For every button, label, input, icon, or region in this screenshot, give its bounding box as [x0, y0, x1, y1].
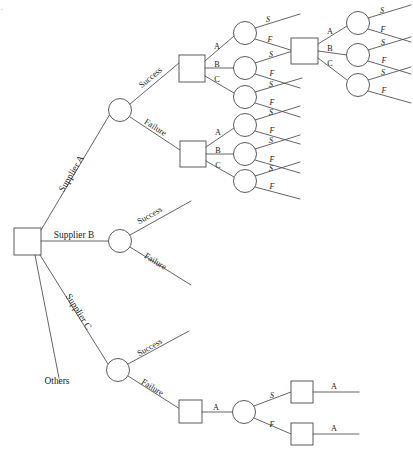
chance-node-af-c[interactable]: [234, 170, 257, 193]
label-others: Others: [45, 376, 70, 386]
edge-as-c-s: [255, 78, 302, 92]
label-as-b-f: F: [269, 69, 275, 78]
label-sl-b-f: F: [381, 56, 387, 65]
label-af-b-s: S: [269, 136, 273, 145]
chance-node-supplier-a[interactable]: [109, 99, 132, 122]
label-as-option-a: A: [214, 42, 220, 51]
label-a-failure: Failure: [143, 116, 169, 138]
label-supplier-a: Supplier A: [57, 153, 86, 193]
label-cf-s: S: [270, 391, 274, 400]
label-cf-option-a: A: [213, 403, 219, 412]
label-sl-a-f: F: [380, 25, 386, 34]
label-sl-a-s: S: [380, 6, 384, 15]
decision-node-cf-f-terminal[interactable]: [291, 423, 313, 445]
edge-others: [35, 255, 59, 378]
chance-node-supplier-c[interactable]: [107, 359, 130, 382]
label-sl-c-f: F: [381, 86, 387, 95]
label-cf-f: F: [269, 420, 275, 429]
label-sl-option-b: B: [327, 44, 333, 53]
label-af-b-f: F: [269, 155, 275, 164]
label-as-c-s: S: [269, 80, 273, 89]
edge-af-b-f: [255, 160, 300, 173]
edge-sl-b-s: [368, 37, 411, 50]
edge-as-c-f: [255, 103, 300, 117]
label-af-a-s: S: [269, 108, 273, 117]
label-af-option-b: B: [215, 146, 221, 155]
chance-node-supplier-b[interactable]: [109, 230, 132, 253]
label-b-failure: Failure: [143, 250, 169, 271]
label-sl-c-s: S: [381, 68, 385, 77]
chance-node-af-b[interactable]: [234, 143, 257, 166]
label-af-option-c: C: [215, 161, 221, 170]
label-sl-option-c: C: [327, 59, 333, 68]
decision-node-c-failure[interactable]: [179, 400, 202, 423]
chance-node-c-failure[interactable]: [233, 401, 256, 424]
label-c-failure: Failure: [140, 376, 166, 397]
label-as-option-c: C: [214, 75, 220, 84]
chance-node-as-a[interactable]: [234, 22, 257, 45]
decision-tree-diagram: Supplier A Supplier B Supplier C Others …: [0, 0, 413, 463]
chance-node-as-b[interactable]: [234, 57, 257, 80]
label-as-option-b: B: [214, 60, 220, 69]
edge-af-c-f: [255, 187, 300, 199]
label-as-a-s: S: [266, 15, 270, 24]
decision-node-cf-s-terminal[interactable]: [291, 381, 313, 403]
label-cf-f-terminal-a: A: [331, 424, 337, 433]
label-sl-option-a: A: [327, 27, 333, 36]
decision-node-a-failure[interactable]: [180, 141, 206, 167]
chance-node-sl-c[interactable]: [347, 74, 370, 97]
root-decision-node[interactable]: [14, 228, 41, 255]
edge-sl-a-f: [368, 29, 411, 42]
chance-node-as-c[interactable]: [234, 86, 257, 109]
scan-corner-mark: .: [1, 4, 3, 12]
label-b-success: Success: [135, 204, 164, 227]
label-as-a-f: F: [267, 35, 273, 44]
label-as-c-f: F: [269, 98, 275, 107]
edge-sl-c-s: [368, 67, 411, 80]
edge-af-c-s: [255, 162, 300, 176]
label-af-c-f: F: [269, 182, 275, 191]
label-af-c-s: S: [269, 164, 273, 173]
edge-af-a-s: [255, 106, 300, 120]
label-af-a-f: F: [269, 126, 275, 135]
label-as-b-s: S: [269, 50, 273, 59]
edge-sl-b-f: [368, 61, 411, 74]
tree-canvas: Supplier A Supplier B Supplier C Others …: [0, 0, 413, 463]
decision-node-second-level[interactable]: [291, 38, 318, 64]
edge-as-a-s: [255, 14, 300, 28]
label-supplier-c: Supplier C: [64, 292, 94, 332]
chance-node-sl-b[interactable]: [347, 44, 370, 67]
chance-node-af-a[interactable]: [234, 114, 257, 137]
label-af-option-a: A: [215, 128, 221, 137]
decision-node-a-success[interactable]: [179, 55, 205, 82]
label-cf-s-terminal-a: A: [331, 382, 337, 391]
edge-sl-c-f: [368, 91, 411, 103]
label-a-success: Success: [137, 64, 165, 90]
label-supplier-b: Supplier B: [54, 230, 94, 240]
chance-node-sl-a[interactable]: [347, 12, 370, 35]
edge-sl-a-s: [368, 5, 411, 18]
label-sl-b-s: S: [381, 38, 385, 47]
